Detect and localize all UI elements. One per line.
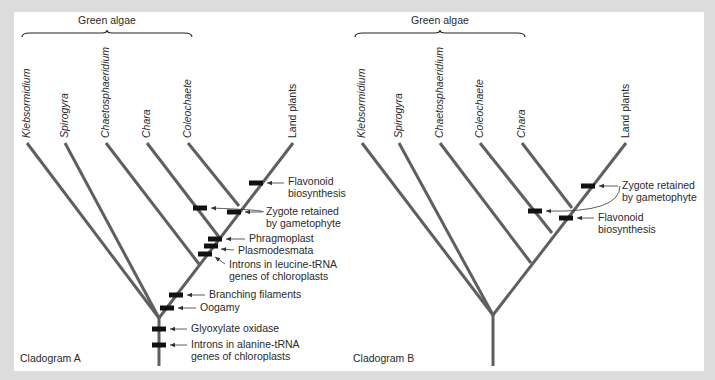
taxon-label-chara: Chara [515,109,527,138]
character-mark-icon [152,343,166,348]
character-label: biosynthesis [598,223,656,235]
character-mark-icon [581,184,595,189]
character-label: Zygote retained [266,205,339,217]
character-label: Zygote retained [622,179,695,191]
character-flavonoid-biosynthesis: Flavonoidbiosynthesis [559,211,656,235]
green-algae-brace: Green algae [355,14,525,37]
character-label: Flavonoid [598,211,644,223]
character-plasmodesmata: Plasmodesmata [204,244,313,257]
taxon-label-land-plants: Land plants [286,84,298,138]
branch-spirogyra [65,143,159,318]
character-mark-icon [193,206,207,211]
character-introns-in-alanine-trna-genes-of-chloroplasts: Introns in alanine-tRNAgenes of chloropl… [152,338,300,362]
branch-klebsormidium [362,143,493,315]
taxon-label-land-plants: Land plants [619,84,631,138]
taxon-label-chaetosphaeridium: Chaetosphaeridium [433,47,445,138]
character-label: Introns in alanine-tRNA [191,338,300,350]
branch-chara [147,143,219,237]
character-mark-icon [204,244,218,249]
character-label: Branching filaments [209,288,301,300]
character-flavonoid-biosynthesis: Flavonoidbiosynthesis [249,175,346,199]
character-label: genes of chloroplasts [229,270,328,282]
branch-chara [522,143,572,208]
character-mark-icon [152,327,166,332]
cladogram-label-a: Cladogram A [20,352,81,364]
character-mark-icon [169,293,183,298]
taxon-label-chara: Chara [140,109,152,138]
character-label: genes of chloroplasts [191,350,290,362]
green-algae-brace: Green algae [22,14,192,37]
group-label-green-algae: Green algae [411,14,469,26]
branch-coleochaete [480,143,552,233]
character-label: Flavonoid [288,175,334,187]
character-label: by gametophyte [622,191,697,203]
character-mark-icon [528,209,542,214]
cladogram-label-b: Cladogram B [353,352,414,364]
taxon-label-chaetosphaeridium: Chaetosphaeridium [99,47,111,138]
character-label: Introns in leucine-tRNA [229,258,337,270]
character-zygote-retained-by-gametophyte: Zygote retainedby gametophyte [193,205,341,229]
character-mark-icon [208,237,222,242]
taxon-label-coleochaete: Coleochaete [473,79,485,138]
character-mark-icon [249,181,263,186]
character-label: Glyoxylate oxidase [191,322,279,334]
character-introns-in-leucine-trna-genes-of-chloroplasts: Introns in leucine-tRNAgenes of chloropl… [198,252,337,283]
branch-klebsormidium [27,143,159,318]
cladogram-figure: Green algaeKlebsormidiumSpirogyraChaetos… [0,0,715,380]
character-label: Oogamy [200,301,240,313]
taxon-label-spirogyra: Spirogyra [58,93,70,138]
taxon-label-klebsormidium: Klebsormidium [20,68,32,138]
character-mark-icon [559,216,573,221]
character-label: Plasmodesmata [238,244,313,256]
group-label-green-algae: Green algae [78,14,136,26]
character-mark-icon [198,252,212,257]
character-label: biosynthesis [288,187,346,199]
branch-spirogyra [399,143,493,315]
cladogram-a: Green algaeKlebsormidiumSpirogyraChaetos… [20,14,346,366]
character-mark-icon [160,306,174,311]
character-glyoxylate-oxidase: Glyoxylate oxidase [152,322,279,334]
character-mark-icon [227,210,241,215]
branch-coleochaete [188,143,239,206]
character-label: by gametophyte [266,217,341,229]
character-label: Phragmoplast [249,232,314,244]
taxon-label-coleochaete: Coleochaete [181,79,193,138]
cladogram-b: Green algaeKlebsormidiumSpirogyraChaetos… [353,14,697,366]
taxon-label-spirogyra: Spirogyra [392,93,404,138]
taxon-label-klebsormidium: Klebsormidium [355,68,367,138]
character-branching-filaments: Branching filaments [169,288,301,300]
